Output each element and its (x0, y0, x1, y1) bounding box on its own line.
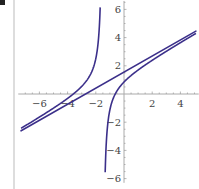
y-tick-label: 4 (115, 32, 121, 43)
y-tick-label: −4 (106, 145, 121, 156)
x-tick-label: 4 (177, 98, 183, 109)
series-curve-left-branch (21, 7, 100, 128)
y-tick-label: −6 (106, 173, 121, 184)
chart: −6−4−224642−2−4−6 (0, 0, 199, 189)
y-tick-label: 2 (115, 60, 121, 71)
x-tick-label: −6 (32, 98, 47, 109)
x-tick-label: 2 (149, 98, 155, 109)
y-tick-label: 6 (115, 4, 121, 15)
x-tick-label: −2 (88, 98, 103, 109)
